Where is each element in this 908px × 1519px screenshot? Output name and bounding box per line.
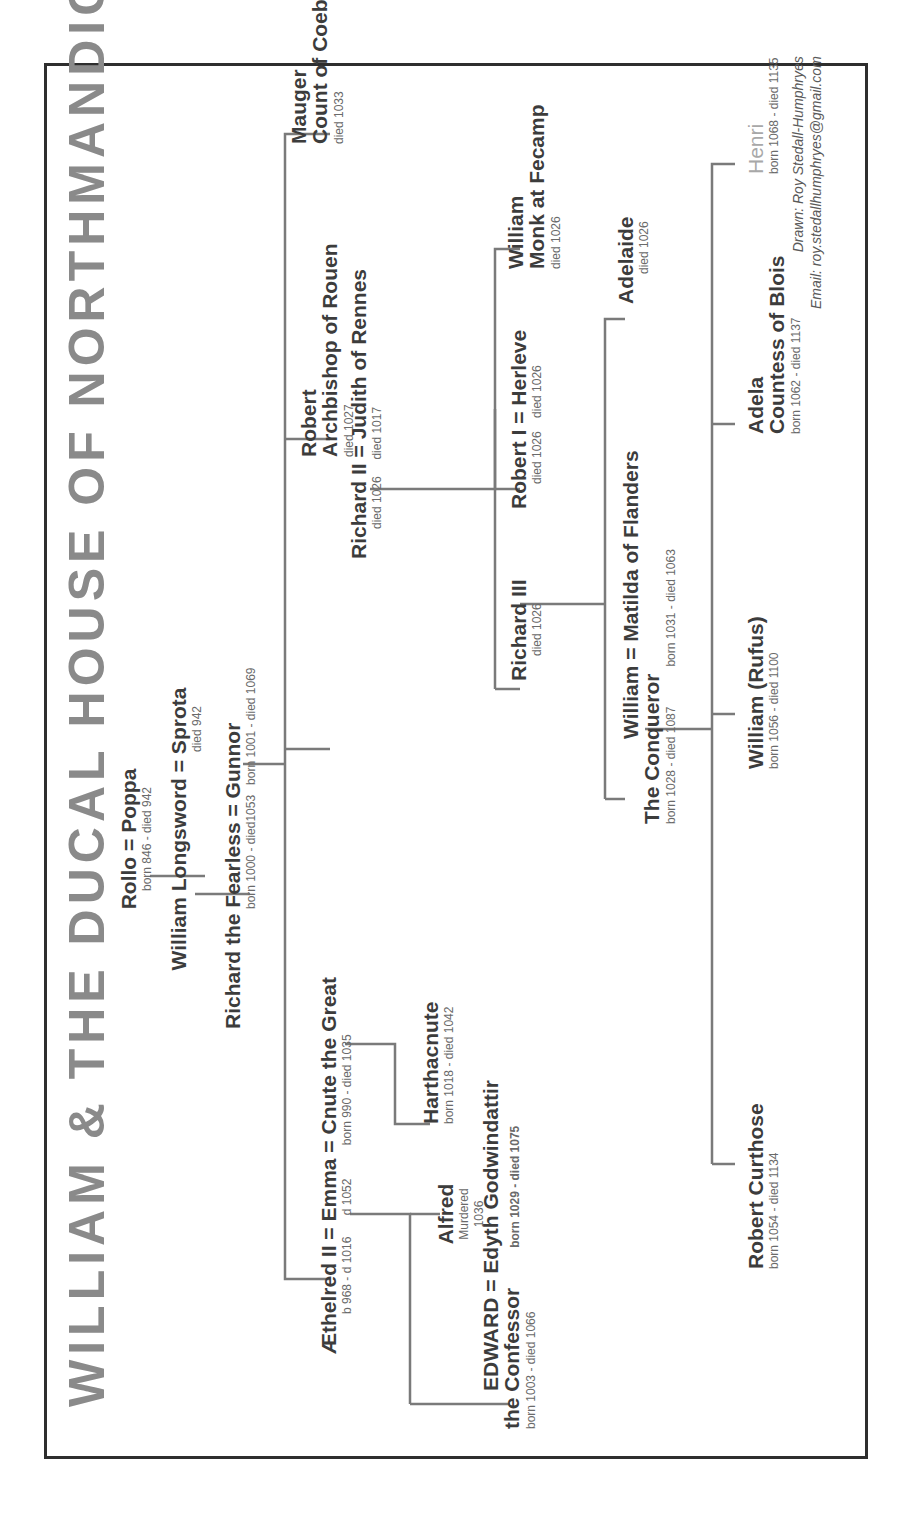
node-william-rufus: William (Rufus) born 1056 - died 1100 — [745, 616, 781, 769]
node-william-the-conqueror: William = Matilda of Flanders The Conque… — [620, 450, 677, 824]
author-credit: Drawn: Roy Stedall-Humphryes Email: roy.… — [790, 56, 825, 309]
line-aethelred-children — [350, 1214, 410, 1404]
node-henri: Henri born 1068 - died 1135 — [745, 57, 781, 174]
node-alfred: Alfred Murdered 1036 — [435, 1184, 485, 1245]
line-richard-ii-children — [370, 409, 495, 489]
credit-drawn: Drawn: Roy Stedall-Humphryes — [790, 56, 808, 309]
family-tree-canvas: WILLIAM & THE DUCAL HOUSE OF NORTHMANDIG — [0, 0, 908, 1519]
credit-email: Email: roy.stedallhumphryes@gmail.com — [808, 56, 826, 309]
node-robert-archbishop: Robert Archbishop of Rouen died 1027 — [298, 244, 355, 458]
line-cnute-harthacnute — [345, 1044, 430, 1124]
node-edward-confessor: EDWARD = Edyth Godwindattir the Confesso… — [480, 1080, 537, 1429]
node-adelaide: Adelaide died 1026 — [615, 216, 651, 304]
node-robert-curthose: Robert Curthose born 1054 - died 1134 — [745, 1103, 781, 1269]
node-mauger: Mauger Count of Coebeil died 1033 — [288, 0, 345, 144]
node-richard-the-fearless: Richard the Fearless = Gunnor born 1000 … — [222, 667, 258, 1029]
node-harthacnute: Harthacnute born 1018 - died 1042 — [420, 1001, 456, 1124]
node-william-monk: William Monk at Fecamp died 1026 — [505, 104, 562, 269]
node-richard-iii: Richard III died 1026 — [508, 579, 544, 681]
node-robert-i: Robert I = Herleve died 1026 died 1026 — [508, 330, 544, 509]
node-rollo: Rollo = Poppa born 846 - died 942 — [118, 769, 154, 910]
node-aethelred-emma-cnute: Æthelred II = Emma = Cnute the Great b 9… — [318, 977, 354, 1354]
node-william-longsword: William Longsword = Sprota died 942 — [168, 688, 204, 971]
